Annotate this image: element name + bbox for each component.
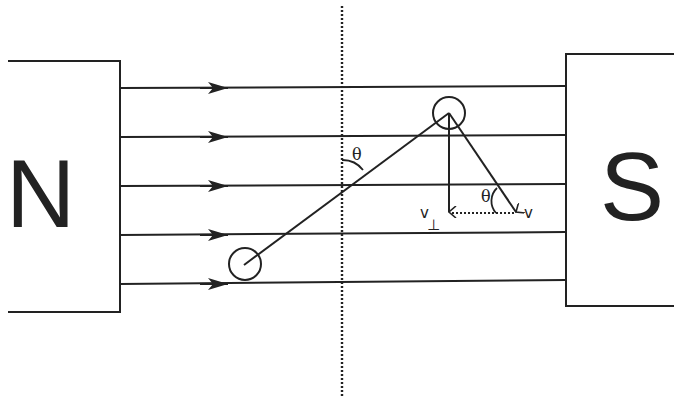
theta-label-velocity: θ — [481, 187, 491, 206]
south-pole-label: S — [600, 133, 664, 240]
theta-label-rod: θ — [352, 145, 362, 164]
theta-arc-velocity — [491, 188, 497, 213]
v-perp-subscript: ⊥ — [427, 216, 440, 234]
north-pole-label: N — [6, 140, 75, 247]
magnet-diagram: N S θ θ v ⊥ v — [0, 0, 681, 404]
north-pole: N — [6, 61, 120, 312]
south-pole: S — [566, 54, 674, 306]
v-label: v — [524, 204, 533, 222]
